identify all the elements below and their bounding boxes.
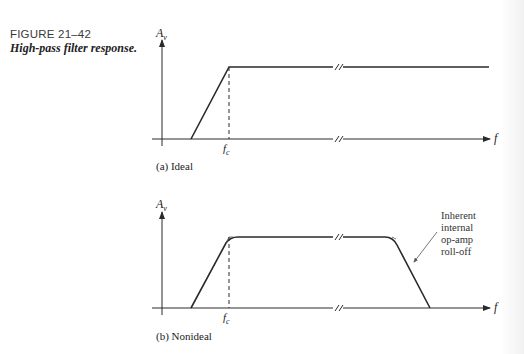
response-curve xyxy=(191,67,333,139)
rolloff-annotation: Inherent internal op-amp roll-off xyxy=(441,210,476,258)
panel-b-nonideal xyxy=(152,212,490,315)
cutoff-frequency-label: fc xyxy=(223,142,230,157)
axis-break-icon xyxy=(335,136,343,142)
panel-b-caption: (b) Nonideal xyxy=(156,330,212,342)
y-axis-label: Av xyxy=(156,26,167,42)
axis-break-icon xyxy=(335,64,343,70)
cutoff-frequency-label: fc xyxy=(223,311,230,326)
panel-a-caption: (a) Ideal xyxy=(156,160,193,172)
y-axis-label: Av xyxy=(156,197,167,213)
axis-break-icon xyxy=(335,305,343,311)
response-curve xyxy=(191,237,430,308)
panel-a-ideal xyxy=(152,40,490,146)
filter-response-diagram xyxy=(0,0,524,354)
axis-break-icon xyxy=(335,234,343,240)
annotation-pointer xyxy=(414,232,437,262)
x-axis-label: f xyxy=(494,300,497,315)
x-axis-label: f xyxy=(494,131,497,146)
